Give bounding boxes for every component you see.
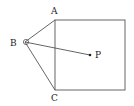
segment-bc (25, 42, 55, 90)
label-c: C (51, 93, 58, 103)
label-a: A (50, 6, 58, 16)
segment-bp (25, 42, 90, 55)
point-p-dot (89, 54, 92, 57)
segment-ba (25, 20, 55, 42)
geometry-diagram: A B C P (0, 0, 134, 106)
label-p: P (95, 50, 101, 60)
label-b: B (10, 38, 17, 48)
